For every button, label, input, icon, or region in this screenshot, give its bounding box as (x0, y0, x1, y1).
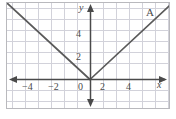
grid-lines (7, 3, 169, 108)
y-tick-label-4: 4 (76, 29, 81, 39)
x-tick-label--4: −4 (22, 82, 33, 92)
graph-svg (7, 3, 169, 108)
graph-label-a: A (146, 7, 154, 17)
graph-figure: −4 −2 0 2 4 2 4 y x A (0, 0, 176, 119)
plot-area (7, 3, 169, 108)
x-tick-label-0: 0 (78, 82, 83, 92)
y-tick-label-2: 2 (76, 52, 81, 62)
x-tick-label--2: −2 (48, 82, 59, 92)
x-axis-label: x (157, 80, 161, 90)
x-tick-label-4: 4 (126, 82, 131, 92)
x-tick-label-2: 2 (100, 82, 105, 92)
y-axis-label: y (79, 3, 83, 13)
